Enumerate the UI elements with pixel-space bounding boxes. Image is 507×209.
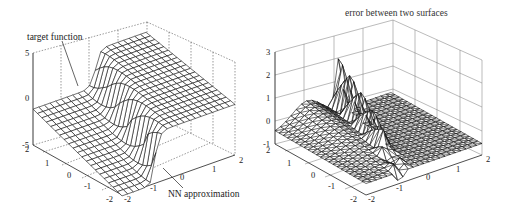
right-y-tick: 1 bbox=[287, 158, 291, 168]
left-y-tick: 0 bbox=[67, 170, 71, 180]
right-z-tick: 1 bbox=[266, 93, 270, 103]
figure: 5 0 -5 2 1 0 -1 -2 -2 -1 0 1 2 target fu… bbox=[0, 0, 507, 209]
left-x-tick: 0 bbox=[180, 172, 184, 182]
left-x-tick: -2 bbox=[124, 194, 131, 204]
left-z-tick: 0 bbox=[25, 93, 29, 103]
left-y-tick: -1 bbox=[84, 181, 91, 191]
right-y-tick: -2 bbox=[350, 194, 357, 204]
left-y-tick: -2 bbox=[106, 194, 113, 204]
right-x-tick: 1 bbox=[456, 164, 460, 174]
right-mesh bbox=[275, 59, 482, 184]
left-x-tick: 2 bbox=[239, 155, 243, 165]
right-y-tick: 0 bbox=[311, 170, 315, 180]
right-x-tick: 0 bbox=[426, 172, 430, 182]
left-x-tick: -1 bbox=[150, 183, 157, 193]
target-function-label: target function bbox=[27, 32, 83, 42]
right-z-tick: 0 bbox=[266, 116, 270, 126]
right-plot-title: error between two surfaces bbox=[345, 8, 448, 18]
right-x-tick: -1 bbox=[396, 183, 403, 193]
target-function-arrow bbox=[62, 41, 78, 86]
right-z-tick: 3 bbox=[266, 47, 270, 57]
left-y-tick: 2 bbox=[25, 144, 29, 154]
left-x-tick: 1 bbox=[212, 164, 216, 174]
left-z-tick: 5 bbox=[25, 48, 29, 58]
right-y-tick: -1 bbox=[328, 181, 335, 191]
right-x-tick: -2 bbox=[368, 194, 375, 204]
left-surface-plot: 5 0 -5 2 1 0 -1 -2 -2 -1 0 1 2 target fu… bbox=[22, 22, 243, 204]
nn-approximation-label: NN approximation bbox=[168, 189, 240, 199]
left-y-tick: 1 bbox=[45, 158, 49, 168]
right-y-tick: 2 bbox=[266, 145, 270, 155]
right-x-tick: 2 bbox=[486, 154, 490, 164]
right-surface-plot: error between two surfaces 3 2 1 0 -1 2 … bbox=[263, 8, 490, 204]
right-z-tick: 2 bbox=[266, 70, 270, 80]
left-mesh bbox=[33, 32, 235, 196]
